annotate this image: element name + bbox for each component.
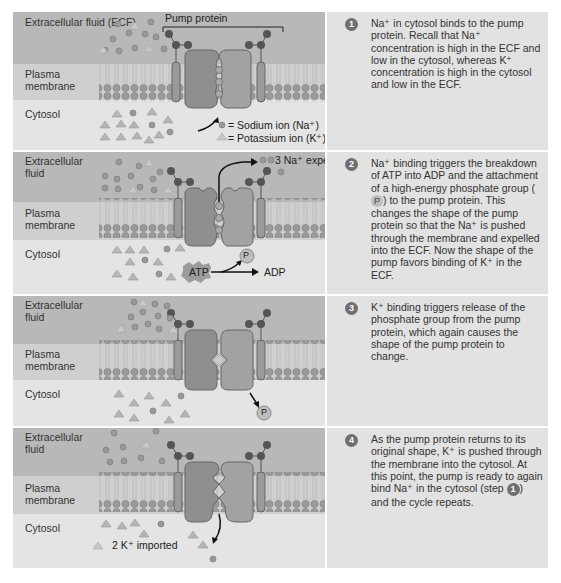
step-number-badge: 4 xyxy=(345,434,358,447)
potassium-ions-cytosol xyxy=(100,108,173,143)
step-4-panel: Extracellular fluid Plasma membrane Cyto… xyxy=(13,428,548,568)
potassium-imported-label: 2 K⁺ imported xyxy=(112,539,178,551)
phosphate-label: P xyxy=(261,407,267,417)
phosphate-label: P xyxy=(243,250,249,260)
sodium-expelled-label: 3 Na⁺ expelled xyxy=(275,154,325,166)
potassium-legend-label: = Potassium ion (K⁺) xyxy=(228,132,325,144)
pump-protein-right-icon xyxy=(221,188,253,246)
description-text: Na⁺ binding triggers the breakdown of AT… xyxy=(371,157,538,194)
step-1-diagram: Extracellular fluid (ECF) Plasma membran… xyxy=(13,12,325,150)
step-1-description: Na⁺ in cytosol binds to the pump protein… xyxy=(371,17,543,91)
pump-protein-left-icon xyxy=(185,188,217,246)
atp-label: ATP xyxy=(189,266,209,278)
step-2-description: Na⁺ binding triggers the breakdown of AT… xyxy=(371,157,543,281)
pump-protein-right-icon xyxy=(219,50,251,108)
step-3-panel: Extracellular fluid Plasma membrane Cyto… xyxy=(13,296,548,426)
step-number-badge: 2 xyxy=(345,158,358,171)
sodium-legend-icon xyxy=(219,122,225,128)
step-2-panel: Extracellular fluid Plasma membrane Cyto… xyxy=(13,152,548,294)
step-4-diagram: Extracellular fluid Plasma membrane Cyto… xyxy=(13,428,325,568)
step-1-panel: Extracellular fluid (ECF) Plasma membran… xyxy=(13,12,548,150)
pump-protein-label: Pump protein xyxy=(165,12,227,24)
step-3-diagram: Extracellular fluid Plasma membrane Cyto… xyxy=(13,296,325,426)
sodium-legend-label: = Sodium ion (Na⁺) xyxy=(228,119,319,131)
step-4-text-panel: 4 As the pump protein returns to its ori… xyxy=(327,428,548,568)
step-2-diagram: Extracellular fluid Plasma membrane Cyto… xyxy=(13,152,325,294)
phosphate-inline-icon: P xyxy=(371,195,383,207)
potassium-legend-icon xyxy=(217,133,227,140)
step-3-text-panel: 3 K⁺ binding triggers release of the pho… xyxy=(327,296,548,426)
description-text: ) to the pump protein. This changes the … xyxy=(371,194,540,281)
step-3-description: K⁺ binding triggers release of the phosp… xyxy=(371,301,543,362)
step-number-badge: 1 xyxy=(345,18,358,31)
pump-protein-left-icon xyxy=(185,50,219,108)
step-number-badge: 3 xyxy=(345,302,358,315)
step-1-reference-badge: 1 xyxy=(507,483,520,496)
step-4-description: As the pump protein returns to its origi… xyxy=(371,433,543,508)
adp-label: ADP xyxy=(264,266,286,278)
potassium-icon xyxy=(93,542,103,549)
step-1-text-panel: 1 Na⁺ in cytosol binds to the pump prote… xyxy=(327,12,548,150)
step-2-text-panel: 2 Na⁺ binding triggers the breakdown of … xyxy=(327,152,548,294)
membrane-illustration xyxy=(13,296,325,426)
